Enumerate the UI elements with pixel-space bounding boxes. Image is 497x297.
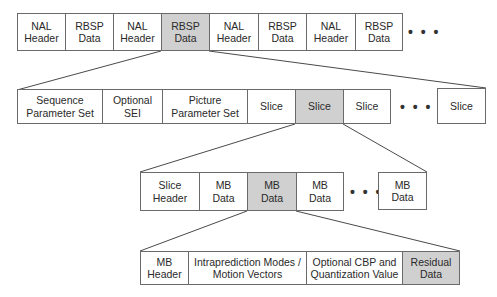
mb-header-cell: MB Header (140, 251, 189, 285)
slice-cell: Slice (343, 89, 391, 124)
intraprediction-modes-cell: Intraprediction Modes / Motion Vectors (188, 251, 307, 285)
cbp-quantization-cell: Optional CBP and Quantization Value (306, 251, 403, 285)
connector-line (209, 51, 486, 88)
rbsp-data-cell-highlighted: RBSP Data (161, 13, 210, 51)
ellipsis-icon: • • • (400, 102, 432, 112)
optional-sei-cell: Optional SEI (102, 89, 163, 124)
mb-data-cell-highlighted: MB Data (247, 172, 297, 211)
connector-line (140, 124, 295, 172)
residual-data-cell-highlighted: Residual Data (402, 251, 460, 285)
picture-parameter-set-cell: Picture Parameter Set (162, 89, 248, 124)
rbsp-data-cell: RBSP Data (258, 13, 307, 51)
nal-header-cell: NAL Header (17, 13, 66, 51)
rbsp-data-cell: RBSP Data (355, 13, 403, 51)
sequence-parameter-set-cell: Sequence Parameter Set (17, 89, 103, 124)
nal-header-cell: NAL Header (113, 13, 162, 51)
connector-line (343, 124, 427, 172)
slice-cell: Slice (437, 88, 486, 124)
mb-data-cell: MB Data (296, 172, 344, 211)
slice-cell-highlighted: Slice (295, 89, 344, 124)
connector-line (17, 51, 161, 90)
connector-line (140, 211, 247, 251)
slice-header-cell: Slice Header (140, 172, 200, 211)
rbsp-data-cell: RBSP Data (65, 13, 114, 51)
slice-cell: Slice (247, 89, 296, 124)
nal-header-cell: NAL Header (209, 13, 259, 51)
mb-data-cell: MB Data (378, 172, 427, 210)
ellipsis-icon: • • • (408, 27, 440, 37)
nal-header-cell: NAL Header (306, 13, 356, 51)
mb-data-cell: MB Data (199, 172, 248, 211)
connector-line (296, 211, 460, 251)
